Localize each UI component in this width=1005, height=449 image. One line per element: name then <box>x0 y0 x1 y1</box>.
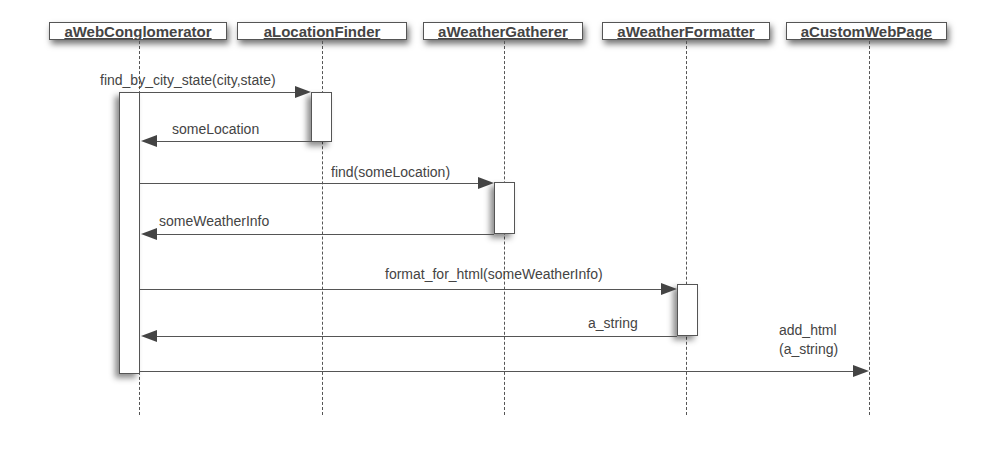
message-label: a_string <box>588 315 638 331</box>
arrowhead-left-icon <box>141 228 157 240</box>
message-arrow <box>140 183 479 184</box>
object-aWeatherGatherer: aWeatherGatherer <box>423 22 583 40</box>
message-label: format_for_html(someWeatherInfo) <box>385 266 603 282</box>
message-arrow <box>156 141 311 142</box>
arrowhead-left-icon <box>141 330 157 342</box>
activation-aWeatherGatherer <box>494 182 515 234</box>
activation-aLocationFinder <box>311 92 332 142</box>
message-label: someLocation <box>172 121 259 137</box>
message-arrow <box>156 234 494 235</box>
object-aCustomWebPage: aCustomWebPage <box>786 22 947 40</box>
object-aLocationFinder: aLocationFinder <box>237 22 407 40</box>
arrowhead-right-icon <box>478 177 494 189</box>
object-aWebConglomerator: aWebConglomerator <box>49 22 227 40</box>
message-label: find(someLocation) <box>331 164 450 180</box>
lifeline-aCustomWebPage <box>869 41 870 415</box>
lifeline-aWeatherFormatter <box>686 41 687 415</box>
object-aWeatherFormatter: aWeatherFormatter <box>602 22 770 40</box>
activation-aWeatherFormatter <box>677 284 698 336</box>
message-label-line1: add_html <box>779 322 837 338</box>
arrowhead-right-icon <box>661 283 677 295</box>
message-arrow <box>140 92 296 93</box>
message-label: someWeatherInfo <box>159 213 269 229</box>
arrowhead-right-icon <box>853 365 869 377</box>
message-label-line2: (a_string) <box>779 341 838 357</box>
message-arrow <box>140 371 855 372</box>
message-arrow <box>140 289 662 290</box>
arrowhead-left-icon <box>141 135 157 147</box>
activation-aWebConglomerator <box>119 92 140 374</box>
message-arrow <box>156 336 677 337</box>
message-label: find_by_city_state(city,state) <box>100 72 276 88</box>
arrowhead-right-icon <box>295 86 311 98</box>
